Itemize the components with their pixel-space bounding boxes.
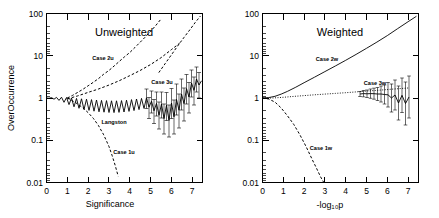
series-case-2u-lower <box>67 43 179 99</box>
x-tick-label-7: 7 <box>190 186 195 196</box>
x-axis-title-unweighted: Significance <box>86 199 135 209</box>
x-tick-label-5: 5 <box>148 186 153 196</box>
panel-title-unweighted: Unweighted <box>95 26 153 38</box>
chart-panel-weighted: 100 10 1 0.1 0.01 <box>220 0 439 218</box>
y-tick-label-1-w: 1 <box>254 93 259 103</box>
series-langston <box>47 79 202 120</box>
series-case-1u <box>67 98 118 176</box>
annotation-case-3u: Case 3u <box>151 79 173 85</box>
annotation-langston: Langston <box>101 119 127 125</box>
panel-title-weighted: Weighted <box>317 26 363 38</box>
error-bars-unweighted <box>145 67 202 137</box>
x-tick-label-2: 2 <box>86 186 91 196</box>
x-tick-label-6: 6 <box>169 186 174 196</box>
y-tick-label-10: 10 <box>34 51 44 61</box>
y-tick-label-100: 100 <box>29 9 43 19</box>
x-tick-label-0-w: 0 <box>260 186 265 196</box>
annotation-case-3w: Case 3w <box>364 80 387 86</box>
x-tick-label-4-w: 4 <box>343 186 348 196</box>
x-tick-label-6-w: 6 <box>385 186 390 196</box>
annotation-case-1w: Case 1w <box>310 145 333 151</box>
x-tick-label-2-w: 2 <box>302 186 307 196</box>
x-tick-label-5-w: 5 <box>364 186 369 196</box>
x-tick-label-1: 1 <box>65 186 70 196</box>
series-case-3u <box>159 16 201 73</box>
x-tick-label-0: 0 <box>44 186 49 196</box>
x-tick-label-3-w: 3 <box>323 186 328 196</box>
y-tick-label-0.01: 0.01 <box>26 178 43 188</box>
y-axis-title-unweighted: OverOccurrence <box>6 65 16 131</box>
x-tick-label-7-w: 7 <box>406 186 411 196</box>
x-tick-label-3: 3 <box>107 186 112 196</box>
y-tick-label-1: 1 <box>38 93 43 103</box>
annotation-case-2w: Case 2w <box>316 56 339 62</box>
x-axis-title-weighted: -log₁₀p <box>317 200 344 210</box>
figure-root: 100 10 1 0.1 0.01 <box>0 0 439 218</box>
annotation-case-1u: Case 1u <box>113 149 135 155</box>
x-tick-label-1-w: 1 <box>281 186 286 196</box>
y-tick-label-10-w: 10 <box>250 51 260 61</box>
annotation-case-2u: Case 2u <box>92 55 114 61</box>
x-tick-label-4: 4 <box>127 186 132 196</box>
y-tick-label-0.1-w: 0.1 <box>247 135 259 145</box>
y-tick-label-0.01-w: 0.01 <box>242 178 259 188</box>
y-tick-label-0.1: 0.1 <box>31 135 43 145</box>
chart-panel-unweighted: 100 10 1 0.1 0.01 <box>0 0 219 218</box>
series-case-1w <box>263 98 324 182</box>
y-tick-label-100-w: 100 <box>245 9 259 19</box>
